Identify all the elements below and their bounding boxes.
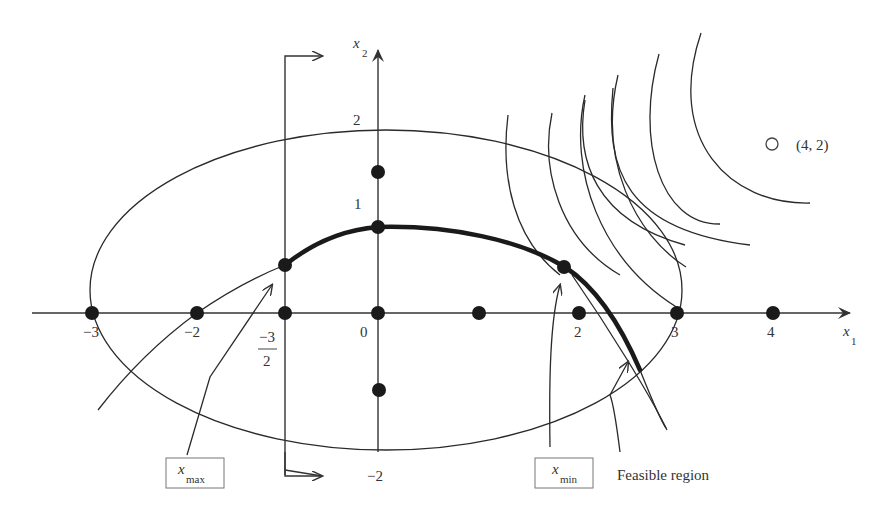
tick-x-2: 2 [574, 324, 582, 340]
contour-arc-6 [691, 33, 810, 203]
tick-x-3: 3 [671, 324, 679, 340]
x-min-point [557, 260, 571, 274]
point [371, 306, 385, 320]
x2-axis-label-sub: 2 [362, 47, 368, 59]
contour-arc-7 [572, 275, 667, 430]
x-min-label: x [551, 461, 559, 477]
contour-arc-5 [650, 54, 720, 224]
x1-axis-label-sub: 1 [851, 335, 857, 347]
tick-x-minus3: −3 [83, 324, 99, 340]
optimization-diagram: (4, 2) x 2 x 1 −3 −2 −3 2 0 2 3 4 2 1 −2… [0, 0, 887, 520]
point [190, 306, 204, 320]
contour-arc-4 [612, 75, 686, 267]
lattice-points [85, 165, 780, 397]
point [670, 306, 684, 320]
tick-y-2: 2 [353, 112, 361, 128]
point [371, 165, 385, 179]
tick-y-minus2: −2 [367, 468, 383, 484]
x-max-point [278, 258, 292, 272]
point [372, 383, 386, 397]
feasible-region-callout: Feasible region [610, 362, 710, 483]
tick-x-minus1.5-den: 2 [263, 353, 271, 369]
x-max-label: x [177, 461, 185, 477]
point [371, 220, 385, 234]
point [85, 306, 99, 320]
point [766, 306, 780, 320]
point [572, 306, 586, 320]
tick-x-4: 4 [767, 324, 775, 340]
x2-axis-label: x [352, 35, 360, 51]
objective-contours [506, 33, 810, 430]
feasible-region-label: Feasible region [617, 467, 710, 483]
point [278, 306, 292, 320]
x-min-label-sub: min [560, 473, 578, 485]
x-max-callout: x max [166, 285, 272, 488]
target-point-marker [766, 138, 778, 150]
tick-x-minus2: −2 [184, 324, 200, 340]
contour-arc-2 [549, 113, 620, 275]
target-point-label: (4, 2) [796, 137, 829, 154]
tick-y-1: 1 [354, 196, 362, 212]
point [472, 306, 486, 320]
x1-axis-label: x [842, 323, 850, 339]
tick-x-minus1.5-num: −3 [259, 329, 275, 345]
tick-x-0: 0 [360, 324, 368, 340]
x-max-label-sub: max [186, 473, 205, 485]
